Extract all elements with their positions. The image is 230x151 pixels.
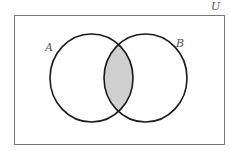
universe-label: U <box>211 1 220 12</box>
set-a-label: A <box>45 42 53 53</box>
set-b-label: B <box>176 38 184 49</box>
venn-diagram <box>0 0 230 151</box>
